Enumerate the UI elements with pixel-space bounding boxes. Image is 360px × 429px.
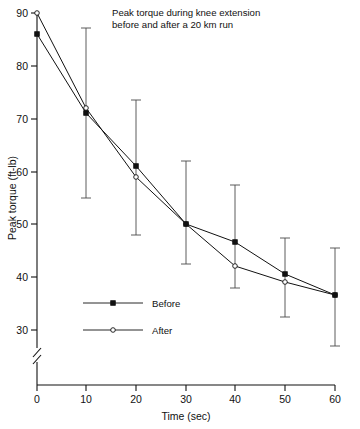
x-tick-label-30: 30 <box>180 393 192 405</box>
series-before-point-30 <box>184 222 189 227</box>
error-bar-t40 <box>230 185 240 288</box>
chart-legend: Before After <box>83 298 180 336</box>
legend-label-after: After <box>152 325 173 336</box>
y-tick-label-30: 30 <box>16 324 28 336</box>
series-after-point-20 <box>134 175 139 180</box>
legend-label-before: Before <box>152 298 180 309</box>
peak-torque-line-chart: Peak torque during knee extension before… <box>0 0 360 429</box>
y-tick-label-70: 70 <box>16 113 28 125</box>
y-tick-label-90: 90 <box>16 7 28 19</box>
y-tick-label-60: 60 <box>16 166 28 178</box>
y-tick-label-50: 50 <box>16 218 28 230</box>
y-tick-label-80: 80 <box>16 60 28 72</box>
chart-title-line-2: before and after a 20 km run <box>112 19 233 30</box>
axis-lines <box>33 11 335 385</box>
series-after-point-50 <box>283 280 288 285</box>
legend-marker-before-filled-circle-icon <box>111 301 116 306</box>
series-before-point-60 <box>333 293 338 298</box>
x-axis-ticks <box>37 385 335 391</box>
error-bars <box>81 28 340 346</box>
series-before-point-50 <box>283 272 288 277</box>
chart-title-line-1: Peak torque during knee extension <box>112 7 260 18</box>
y-tick-label-40: 40 <box>16 271 28 283</box>
series-after-point-0 <box>35 11 40 16</box>
error-bar-t50 <box>280 238 290 317</box>
legend-marker-after-open-circle-icon <box>111 328 116 333</box>
legend-entry-before: Before <box>83 298 180 309</box>
legend-entry-after: After <box>83 325 173 336</box>
x-axis-title: Time (sec) <box>161 410 210 422</box>
y-axis-title: Peak torque (ft-lb) <box>6 156 18 240</box>
x-tick-label-20: 20 <box>130 393 142 405</box>
x-axis-tick-labels: 0 10 20 30 40 50 60 <box>34 393 341 405</box>
series-before-point-10 <box>84 111 89 116</box>
error-bar-t30 <box>181 161 191 264</box>
x-tick-label-50: 50 <box>279 393 291 405</box>
x-tick-label-60: 60 <box>329 393 341 405</box>
series-before-point-20 <box>134 164 139 169</box>
series-before-point-40 <box>233 240 238 245</box>
y-axis-ticks <box>31 13 37 330</box>
y-axis-tick-labels: 30 40 50 60 70 80 90 <box>16 7 28 336</box>
x-tick-label-0: 0 <box>34 393 40 405</box>
x-tick-label-40: 40 <box>229 393 241 405</box>
chart-figure: Peak torque during knee extension before… <box>0 0 360 429</box>
series-before-point-0 <box>35 32 40 37</box>
series-after-point-40 <box>233 264 238 269</box>
x-tick-label-10: 10 <box>80 393 92 405</box>
